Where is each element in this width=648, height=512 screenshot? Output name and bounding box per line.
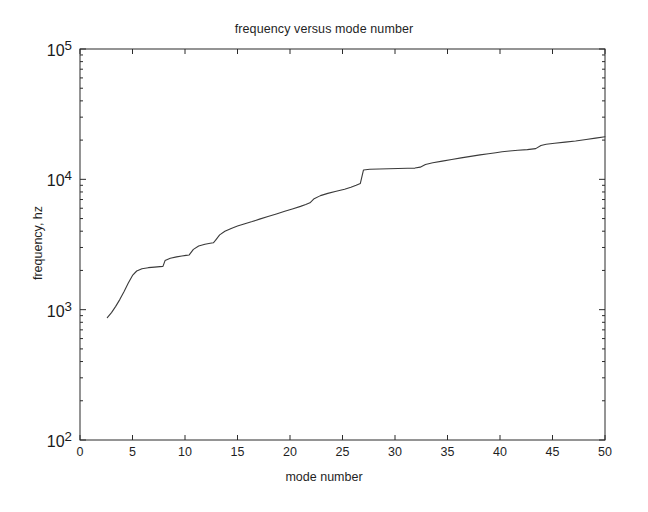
plot-svg — [0, 0, 648, 512]
plot-box — [80, 49, 605, 440]
figure-canvas: frequency versus mode number frequency, … — [0, 0, 648, 512]
tick-marks — [80, 49, 605, 440]
data-line-frequency — [107, 137, 605, 318]
data-series-group — [107, 137, 605, 318]
axes-frame — [80, 49, 605, 440]
